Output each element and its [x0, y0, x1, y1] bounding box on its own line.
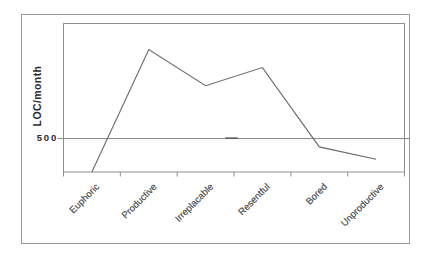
y-tick-label-500: 500 [37, 132, 58, 143]
y-axis-title: LOC/month [31, 66, 43, 127]
chart-svg [0, 0, 434, 256]
plot-area-border [64, 24, 405, 173]
chart-figure: LOC/month 500 Euphoric Productive Irrepl… [0, 0, 434, 256]
data-line [92, 50, 376, 172]
x-axis-ticks [64, 172, 405, 177]
